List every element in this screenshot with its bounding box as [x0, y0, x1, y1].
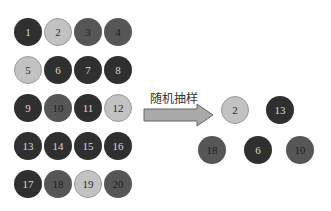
population-ball-3: 3: [74, 18, 102, 46]
population-ball-8: 8: [104, 56, 132, 84]
population-ball-4: 4: [104, 18, 132, 46]
population-ball-18: 18: [44, 170, 72, 198]
population-ball-15: 15: [74, 132, 102, 160]
population-ball-9: 9: [14, 94, 42, 122]
population-ball-11: 11: [74, 94, 102, 122]
sample-ball-13: 13: [266, 96, 294, 124]
population-ball-7: 7: [74, 56, 102, 84]
sample-ball-2: 2: [221, 96, 249, 124]
population-ball-10: 10: [44, 94, 72, 122]
population-ball-14: 14: [44, 132, 72, 160]
population-ball-6: 6: [44, 56, 72, 84]
population-ball-17: 17: [14, 170, 42, 198]
population-ball-2: 2: [44, 18, 72, 46]
population-ball-13: 13: [14, 132, 42, 160]
population-ball-19: 19: [74, 170, 102, 198]
right-arrow-icon: [143, 103, 215, 127]
sample-ball-10: 10: [286, 136, 314, 164]
population-ball-5: 5: [14, 56, 42, 84]
sample-ball-6: 6: [244, 136, 272, 164]
population-ball-20: 20: [104, 170, 132, 198]
population-ball-16: 16: [104, 132, 132, 160]
sample-ball-18: 18: [198, 136, 226, 164]
population-ball-12: 12: [104, 94, 132, 122]
population-ball-1: 1: [14, 18, 42, 46]
